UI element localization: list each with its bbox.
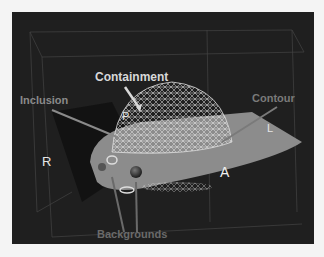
- background-ball: [130, 166, 142, 178]
- label-contour: Contour: [252, 92, 295, 104]
- label-l: L: [267, 122, 273, 134]
- label-r: R: [42, 154, 51, 169]
- label-backgrounds: Backgrounds: [97, 228, 167, 240]
- label-a: A: [220, 164, 229, 180]
- label-p: P: [122, 110, 129, 122]
- diagram-panel: Containment Inclusion Contour Background…: [12, 12, 314, 244]
- label-inclusion: Inclusion: [20, 94, 68, 106]
- label-containment: Containment: [95, 70, 168, 84]
